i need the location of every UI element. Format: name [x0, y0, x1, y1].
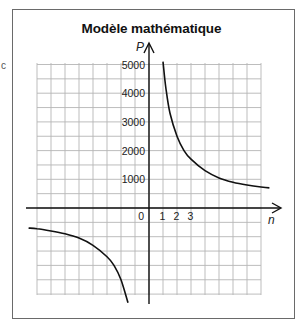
x-tick-label: 1: [160, 210, 166, 222]
curve-positive-branch: [163, 62, 269, 188]
y-tick-label: 2000: [122, 145, 146, 157]
x-axis-label: n: [268, 213, 275, 227]
axes: [26, 43, 281, 304]
x-tick-label: 2: [174, 210, 180, 222]
x-tick-label: 3: [188, 210, 194, 222]
y-tick-label: 1000: [122, 173, 146, 185]
y-tick-label: 3000: [122, 116, 146, 128]
y-tick-label: 4000: [122, 87, 146, 99]
y-tick-label: 5000: [122, 59, 146, 71]
y-axis-label: P: [136, 40, 144, 54]
tick-labels: 100020003000400050000123: [122, 59, 194, 223]
x-tick-label: 0: [138, 210, 144, 222]
